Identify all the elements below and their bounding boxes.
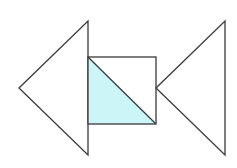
right-triangle: [156, 21, 225, 155]
diagram-canvas: [0, 0, 237, 168]
left-triangle: [19, 21, 88, 155]
